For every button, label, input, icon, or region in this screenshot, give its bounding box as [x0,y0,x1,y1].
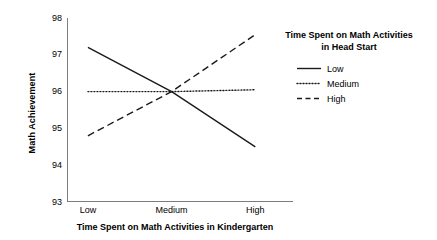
legend-swatch-dotted-icon [296,79,322,88]
legend-title-line-2: in Head Start [268,42,430,54]
y-tick-label: 95 [40,124,62,133]
series-line-high [88,35,255,136]
y-axis-tick-labels: 989796959493 [38,0,62,240]
y-tick-label: 96 [40,87,62,96]
plot-area [67,18,293,202]
series-line-low [88,47,255,146]
legend-title: Time Spent on Math Activities in Head St… [268,30,430,53]
legend-label: Low [327,64,344,74]
legend-entry-high[interactable]: High [296,91,437,106]
legend-entry-medium[interactable]: Medium [296,76,437,91]
y-tick-label: 98 [40,14,62,23]
legend-title-line-1: Time Spent on Math Activities [268,30,430,42]
legend-swatch-dashed-icon [296,94,322,103]
legend-entries: LowMediumHigh [268,61,437,106]
x-tick-label: Medium [137,205,207,215]
legend-entry-low[interactable]: Low [296,61,437,76]
y-axis-title: Math Achievement [27,43,37,183]
x-tick-label: High [220,205,290,215]
x-axis-title: Time Spent on Math Activities in Kinderg… [40,222,310,232]
legend-label: Medium [327,79,359,89]
legend-label: High [327,94,346,104]
math-achievement-line-chart: Math Achievement 989796959493 LowMediumH… [0,0,437,240]
x-axis-tick-labels: LowMediumHigh [67,205,297,219]
x-tick-label: Low [53,205,123,215]
y-tick-label: 97 [40,50,62,59]
legend-swatch-solid-icon [296,64,322,73]
y-tick-label: 94 [40,161,62,170]
series-lines [67,18,293,202]
legend: Time Spent on Math Activities in Head St… [268,30,437,106]
